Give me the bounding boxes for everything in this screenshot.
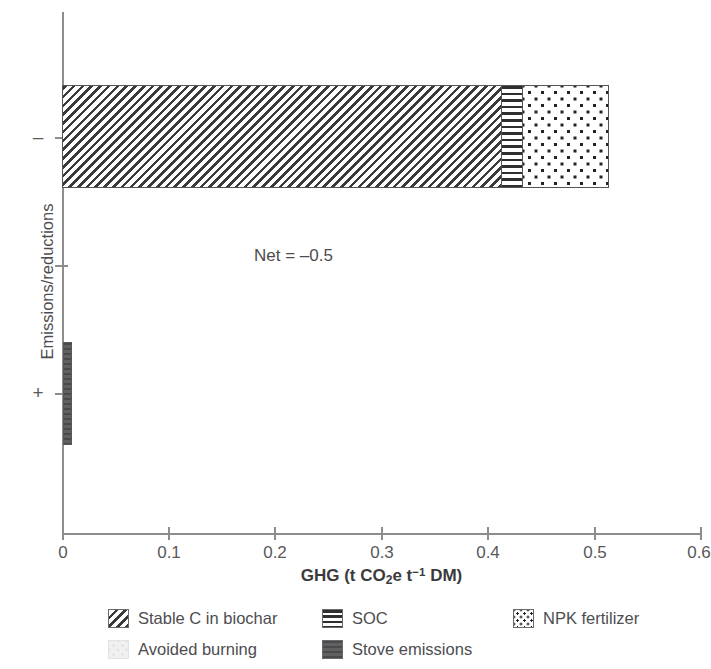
y-tick-label-minus: – — [30, 126, 46, 148]
x-tick-0.3 — [381, 527, 383, 540]
x-tick-0.4 — [487, 527, 489, 540]
x-tick-label-0.1: 0.1 — [157, 543, 181, 563]
bar-segment-stove-emissions — [63, 342, 72, 445]
bar-segment-npk-fertilizer — [522, 85, 609, 188]
x-tick-label-0: 0 — [58, 543, 67, 563]
x-axis-title: GHG (t CO2e t−1 DM) — [62, 566, 701, 587]
x-tick-0.6 — [700, 527, 702, 540]
legend-swatch-very-light-icon — [108, 640, 129, 659]
legend-item-soc: SOC — [322, 609, 388, 628]
x-tick-0.1 — [168, 527, 170, 540]
y-axis-title: Emissions/reductions — [38, 152, 57, 412]
legend-label-soc: SOC — [352, 609, 388, 628]
legend-label-stable-c-in-biochar: Stable C in biochar — [138, 609, 277, 628]
legend-swatch-dots-icon — [513, 609, 534, 628]
x-tick-label-0.5: 0.5 — [583, 543, 607, 563]
x-tick-0.2 — [274, 527, 276, 540]
legend-label-stove-emissions: Stove emissions — [352, 640, 472, 659]
legend-item-stove-emissions: Stove emissions — [322, 640, 472, 659]
legend-swatch-solid-dark-icon — [322, 640, 343, 659]
x-tick-label-0.6: 0.6 — [687, 543, 711, 563]
bar-segment-soc — [501, 85, 523, 188]
legend-label-avoided-burning: Avoided burning — [138, 640, 257, 659]
bar-segment-stable-c-in-biochar — [62, 85, 502, 188]
legend: Stable C in biochar SOC NPK fertilizer A… — [0, 607, 708, 669]
legend-swatch-diagonal-hatch-icon — [108, 609, 129, 628]
x-tick-0.5 — [594, 527, 596, 540]
x-tick-0 — [62, 527, 64, 540]
x-tick-label-0.3: 0.3 — [370, 543, 394, 563]
legend-item-avoided-burning: Avoided burning — [108, 640, 257, 659]
x-axis-title-pre: GHG (t CO — [301, 566, 386, 585]
legend-label-npk-fertilizer: NPK fertilizer — [543, 609, 639, 628]
x-axis-title-sup: −1 — [412, 566, 425, 578]
x-axis-title-post: DM) — [425, 566, 462, 585]
net-annotation: Net = –0.5 — [254, 246, 333, 266]
x-tick-label-0.2: 0.2 — [263, 543, 287, 563]
legend-item-npk-fertilizer: NPK fertilizer — [513, 609, 639, 628]
legend-item-stable-c-in-biochar: Stable C in biochar — [108, 609, 277, 628]
y-tick-zero — [55, 265, 68, 267]
x-axis-title-mid: e t — [392, 566, 412, 585]
x-tick-label-0.4: 0.4 — [476, 543, 500, 563]
legend-swatch-horizontal-lines-icon — [322, 609, 343, 628]
